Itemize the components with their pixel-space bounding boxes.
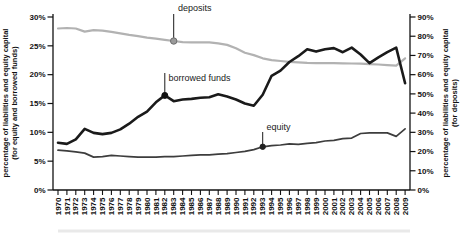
year-tick-label: 1977 [116, 197, 125, 215]
right-axis-title-line1: percentage of liabilities and equity cap… [441, 29, 450, 178]
left-axis-tick-label: 0% [34, 186, 46, 195]
year-tick-label: 2002 [338, 197, 347, 215]
right-axis-title-line2: (for deposits) [450, 79, 459, 127]
year-tick-label: 1972 [71, 197, 80, 215]
year-tick-label: 1974 [89, 197, 98, 215]
year-tick-label: 1987 [205, 197, 214, 215]
right-axis-tick-label: 10% [418, 167, 434, 176]
cropped-caption-smudge [58, 230, 410, 233]
plot-area: 0%5%10%15%20%25%30%0%10%20%30%40%50%60%7… [0, 0, 465, 235]
right-axis-tick-label: 50% [418, 90, 434, 99]
left-axis-title-line1: percentage of liabilities and equity cap… [1, 29, 10, 178]
year-tick-label: 1971 [63, 197, 72, 215]
year-tick-label: 1970 [54, 197, 63, 215]
year-tick-label: 1995 [276, 197, 285, 215]
left-axis-title-line2: (for equity and borrowed funds) [10, 46, 19, 160]
year-tick-label: 2006 [374, 197, 383, 215]
deposits-line [58, 28, 405, 66]
year-tick-label: 2004 [356, 197, 365, 215]
year-tick-label: 2009 [401, 197, 410, 215]
year-tick-label: 1975 [98, 197, 107, 215]
year-tick-label: 1998 [303, 197, 312, 215]
year-tick-label: 1990 [232, 197, 241, 215]
year-tick-label: 1997 [294, 197, 303, 215]
year-tick-label: 1973 [80, 197, 89, 215]
deposits-label: deposits [178, 3, 212, 13]
right-axis-tick-label: 60% [418, 70, 434, 79]
year-tick-label: 1992 [249, 197, 258, 215]
dual-axis-line-chart: 0%5%10%15%20%25%30%0%10%20%30%40%50%60%7… [0, 0, 465, 235]
year-tick-label: 1985 [187, 197, 196, 215]
right-axis-tick-label: 30% [418, 128, 434, 137]
right-axis-tick-label: 80% [418, 32, 434, 41]
year-tick-label: 1976 [107, 197, 116, 215]
year-tick-label: 1991 [241, 197, 250, 215]
left-axis-tick-label: 25% [29, 42, 45, 51]
right-axis-tick-label: 20% [418, 147, 434, 156]
borrowed_funds-label: borrowed funds [169, 73, 232, 83]
equity-marker-dot [260, 144, 265, 149]
year-tick-label: 1996 [285, 197, 294, 215]
right-axis-tick-label: 0% [418, 186, 430, 195]
year-tick-label: 1989 [223, 197, 232, 215]
year-tick-label: 1978 [125, 197, 134, 215]
left-axis-tick-label: 30% [29, 13, 45, 22]
year-tick-label: 1982 [160, 197, 169, 215]
year-tick-label: 1999 [312, 197, 321, 215]
left-axis-tick-label: 20% [29, 70, 45, 79]
left-axis-tick-label: 10% [29, 128, 45, 137]
borrowed_funds-marker-dot [162, 92, 168, 98]
deposits-marker-dot [171, 38, 177, 44]
year-tick-label: 2001 [330, 197, 339, 215]
year-tick-label: 1983 [169, 197, 178, 215]
year-tick-label: 1979 [134, 197, 143, 215]
left-axis-tick-label: 5% [34, 157, 46, 166]
equity-label: equity [267, 122, 292, 132]
year-tick-label: 2007 [383, 197, 392, 215]
borrowed_funds-line [58, 48, 405, 144]
year-tick-label: 1994 [267, 197, 276, 215]
year-tick-label: 2003 [347, 197, 356, 215]
left-axis-tick-label: 15% [29, 99, 45, 108]
year-tick-label: 1986 [196, 197, 205, 215]
year-tick-label: 1988 [214, 197, 223, 215]
year-tick-label: 2005 [365, 197, 374, 215]
year-tick-label: 1984 [178, 197, 187, 215]
year-tick-label: 1993 [258, 197, 267, 215]
year-tick-label: 1980 [143, 197, 152, 215]
right-axis-tick-label: 70% [418, 51, 434, 60]
year-tick-label: 2008 [392, 197, 401, 215]
right-axis-tick-label: 40% [418, 109, 434, 118]
right-axis-tick-label: 90% [418, 13, 434, 22]
year-tick-label: 1981 [152, 197, 161, 215]
year-tick-label: 2000 [321, 197, 330, 215]
